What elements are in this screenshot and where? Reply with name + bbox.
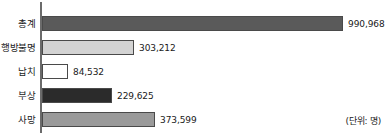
bar-row: 사망373,599 xyxy=(0,108,387,132)
bar-value-label: 990,968 xyxy=(348,12,385,36)
category-label: 납치 xyxy=(0,60,36,84)
category-label: 부상 xyxy=(0,84,36,108)
bar-row: 행방불명303,212 xyxy=(0,36,387,60)
bar-value-label: 84,532 xyxy=(73,60,104,84)
bar xyxy=(42,40,134,55)
bar-chart: 총계990,968행방불명303,212납치84,532부상229,625사망3… xyxy=(0,0,387,139)
bar-value-label: 229,625 xyxy=(117,84,154,108)
chart-plot-area: 총계990,968행방불명303,212납치84,532부상229,625사망3… xyxy=(0,0,387,139)
category-label: 총계 xyxy=(0,12,36,36)
category-label: 사망 xyxy=(0,108,36,132)
bar xyxy=(42,88,112,103)
bar-row: 부상229,625 xyxy=(0,84,387,108)
bar-value-label: 373,599 xyxy=(160,108,197,132)
category-label: 행방불명 xyxy=(0,36,36,60)
bar-value-label: 303,212 xyxy=(139,36,176,60)
bar-row: 총계990,968 xyxy=(0,12,387,36)
bar-row: 납치84,532 xyxy=(0,60,387,84)
unit-note: (단위: 명) xyxy=(345,114,381,127)
bar xyxy=(42,16,343,31)
bar xyxy=(42,112,155,127)
bar xyxy=(42,64,68,79)
